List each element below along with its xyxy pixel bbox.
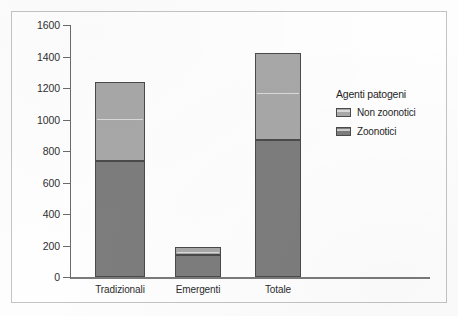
y-axis-tick-label: 0: [8, 271, 60, 283]
y-axis-tick-label: 1600: [8, 19, 60, 31]
y-axis-tick-label-text: 800: [14, 145, 60, 157]
bar-tradizionali: [95, 82, 145, 277]
legend-item-non-zoonotici: Non zoonotici: [336, 107, 440, 118]
y-axis-tick-label-text: 0: [14, 271, 60, 283]
legend-label: Zoonotici: [357, 126, 396, 137]
y-axis-tick: [63, 151, 71, 152]
legend: Agenti patogeni Non zoonoticiZoonotici: [336, 88, 440, 145]
y-axis-tick-label-text: 1400: [14, 51, 60, 63]
bar-segment-non-zoonotici: [95, 82, 145, 161]
bar-segment-zoonotici: [255, 140, 301, 277]
bar-scan-artifact: [257, 93, 299, 94]
figure: 02004006008001000120014001600 Tradiziona…: [0, 0, 458, 316]
y-axis-tick: [63, 88, 71, 89]
y-axis-tick: [63, 120, 71, 121]
y-axis-tick-label: 1000: [8, 114, 60, 126]
x-axis-label-totale: Totale: [228, 284, 328, 295]
y-axis-tick-label: 600: [8, 177, 60, 189]
figure-frame: [11, 11, 447, 303]
bar-segment-non-zoonotici: [255, 53, 301, 140]
y-axis-tick: [63, 25, 71, 26]
y-axis-tick-label: 1400: [8, 51, 60, 63]
y-axis-tick-label: 800: [8, 145, 60, 157]
bar-emergenti: [175, 247, 221, 277]
y-axis-tick-label-text: 1000: [14, 114, 60, 126]
legend-title: Agenti patogeni: [336, 88, 440, 100]
legend-label: Non zoonotici: [357, 107, 416, 118]
y-axis-tick-label: 1200: [8, 82, 60, 94]
bar-scan-artifact: [177, 252, 219, 253]
legend-entries: Non zoonoticiZoonotici: [336, 107, 440, 137]
y-axis-tick: [63, 57, 71, 58]
legend-swatch-icon: [336, 127, 351, 136]
bar-segment-non-zoonotici: [175, 247, 221, 255]
bar-segment-zoonotici: [175, 255, 221, 277]
bar-segment-zoonotici: [95, 161, 145, 277]
legend-swatch-icon: [336, 108, 351, 117]
y-axis-tick: [63, 214, 71, 215]
y-axis-tick: [63, 183, 71, 184]
legend-item-zoonotici: Zoonotici: [336, 126, 440, 137]
y-axis-tick-label: 400: [8, 208, 60, 220]
y-axis-tick: [63, 277, 71, 278]
bar-scan-artifact: [97, 119, 143, 120]
bar-totale: [255, 53, 301, 277]
x-axis-line: [70, 277, 430, 279]
y-axis-tick: [63, 246, 71, 247]
y-axis-tick-label-text: 1200: [14, 82, 60, 94]
y-axis-tick-label: 200: [8, 240, 60, 252]
y-axis-tick-label-text: 1600: [14, 19, 60, 31]
y-axis-tick-label-text: 600: [14, 177, 60, 189]
y-axis-tick-label-text: 200: [14, 240, 60, 252]
y-axis-tick-label-text: 400: [14, 208, 60, 220]
